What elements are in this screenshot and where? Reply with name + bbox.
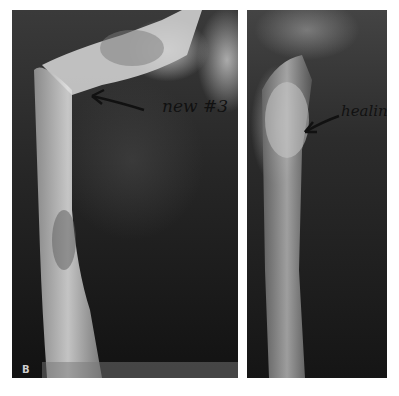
panel-letter: B xyxy=(22,364,30,375)
xray-panel-right: healing xyxy=(247,10,387,378)
humerus-bone-left xyxy=(12,10,238,378)
annotation-healing: healing xyxy=(341,102,387,120)
xray-panel-left: new #3 B xyxy=(12,10,238,378)
humerus-bone-right xyxy=(247,10,387,378)
annotation-new-fracture: new #3 xyxy=(162,96,228,116)
